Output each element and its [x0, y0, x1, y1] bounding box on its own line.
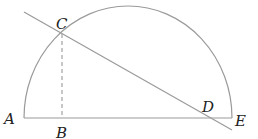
label-C: C [56, 15, 68, 33]
label-B: B [55, 124, 67, 139]
label-E: E [234, 112, 246, 130]
label-D: D [201, 98, 214, 116]
label-A: A [2, 110, 15, 128]
geometry-diagram: A B C D E [0, 0, 258, 139]
